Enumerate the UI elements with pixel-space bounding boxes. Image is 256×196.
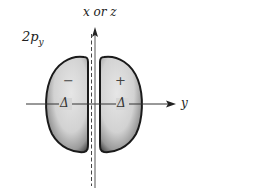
orbital-diagram [0, 0, 256, 196]
right-node-marker: Δ [117, 97, 126, 109]
right-lobe-sign: + [115, 74, 126, 87]
left-lobe-sign: − [63, 74, 74, 87]
left-node-marker: Δ [60, 97, 69, 109]
